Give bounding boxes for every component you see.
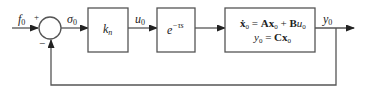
state-equation: ẋ0 = Ax0 + Bu0 xyxy=(240,17,306,31)
delay-block xyxy=(157,8,195,52)
summing-junction xyxy=(39,17,61,39)
minus-sign: − xyxy=(39,37,45,49)
output-equation: y0 = Cx0 xyxy=(253,31,292,45)
control-label: u0 xyxy=(135,12,145,27)
block-diagram: f0 + − σ0 kn u0 e−τs ẋ0 = Ax0 + Bu0 y0 … xyxy=(0,0,365,93)
input-label: f0 xyxy=(18,12,25,27)
output-label: y0 xyxy=(322,12,332,27)
plus-sign: + xyxy=(34,12,39,22)
error-label: σ0 xyxy=(67,12,77,27)
